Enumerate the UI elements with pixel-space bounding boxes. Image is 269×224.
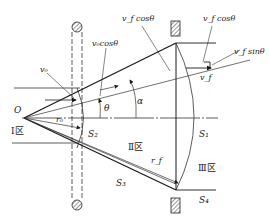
vf-label: v_f — [200, 73, 214, 82]
S3-label: S₃ — [116, 178, 126, 188]
arc-S1 — [176, 43, 194, 190]
vfcos-right-leader — [203, 26, 212, 62]
alpha-label: α — [137, 96, 143, 106]
lower-bold-ray — [24, 118, 176, 190]
r0-label: r₀ — [56, 115, 64, 124]
rf-label: r_f — [151, 156, 164, 165]
alpha-arc — [130, 80, 136, 118]
v0-label: v₀ — [40, 65, 49, 74]
v0cos-label: v₀cosθ — [92, 39, 118, 48]
theta-label: θ — [104, 103, 110, 113]
zone-1-label: Ⅰ区 — [11, 126, 24, 136]
theta-arc — [99, 99, 100, 118]
S2-label: S₂ — [88, 129, 98, 139]
bottom-electrode-square — [171, 198, 180, 213]
S4-label: S₄ — [199, 195, 209, 205]
lens-electron-trajectory-diagram: O v₀ v₀cosθ v_f cosθ v_f cosθ v_f sinθ v… — [0, 0, 269, 224]
zone-2-label: Ⅱ区 — [128, 142, 143, 152]
vfcos-right-label: v_f cosθ — [203, 14, 235, 23]
origin-label: O — [14, 105, 22, 115]
top-electrode-square — [171, 21, 180, 36]
vfcos-top-label: v_f cosθ — [122, 14, 154, 23]
vf-component-arrow — [100, 86, 118, 90]
right-angle-marker — [204, 62, 210, 68]
S1-label: S₁ — [199, 129, 209, 139]
zone-3-label: Ⅲ区 — [198, 163, 216, 173]
top-electrode-circle — [72, 22, 82, 32]
rf-arrow — [24, 118, 178, 183]
vfsin-label: v_f sinθ — [234, 47, 265, 56]
trajectory-line — [24, 60, 250, 118]
bottom-electrode-circle — [72, 200, 82, 210]
v0-leader — [47, 73, 74, 98]
